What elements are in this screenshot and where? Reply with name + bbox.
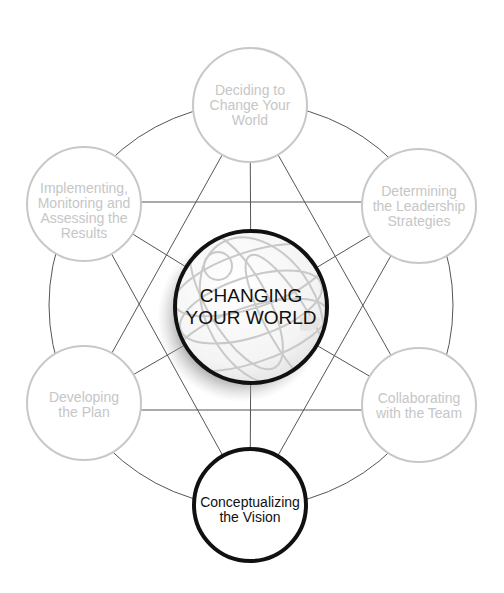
node-determining-strategies[interactable]: Determining the Leadership Strategies (362, 149, 476, 263)
node-label-line: Determining (381, 183, 456, 199)
node-label-line: the Plan (58, 404, 109, 420)
node-label-line: Strategies (387, 213, 450, 229)
node-label-line: Conceptualizing (200, 494, 300, 510)
node-label-line: with the Team (375, 405, 462, 421)
node-developing-plan[interactable]: Developing the Plan (27, 346, 141, 460)
node-label-line: World (232, 112, 268, 128)
node-label-line: the Vision (219, 509, 280, 525)
node-label-line: the Leadership (373, 198, 466, 214)
center-title-line1: CHANGING (200, 285, 302, 306)
change-cycle-diagram: CHANGING YOUR WORLD Deciding to Change Y… (0, 0, 504, 593)
node-implementing-monitoring[interactable]: Implementing, Monitoring and Assessing t… (27, 147, 141, 261)
center-title-line2: YOUR WORLD (186, 307, 317, 328)
node-label-line: Implementing, (40, 180, 128, 196)
node-label-line: Results (61, 225, 108, 241)
node-label-line: Collaborating (378, 390, 461, 406)
node-conceptualizing-vision[interactable]: Conceptualizing the Vision (194, 449, 306, 561)
node-label-line: Monitoring and (38, 195, 131, 211)
node-label-line: Change Your (210, 97, 291, 113)
node-label-line: Developing (49, 389, 119, 405)
node-collaborating-team[interactable]: Collaborating with the Team (362, 348, 476, 462)
node-label-line: Assessing the (40, 210, 127, 226)
node-label-line: Deciding to (215, 82, 285, 98)
node-deciding-to-change[interactable]: Deciding to Change Your World (193, 48, 307, 162)
